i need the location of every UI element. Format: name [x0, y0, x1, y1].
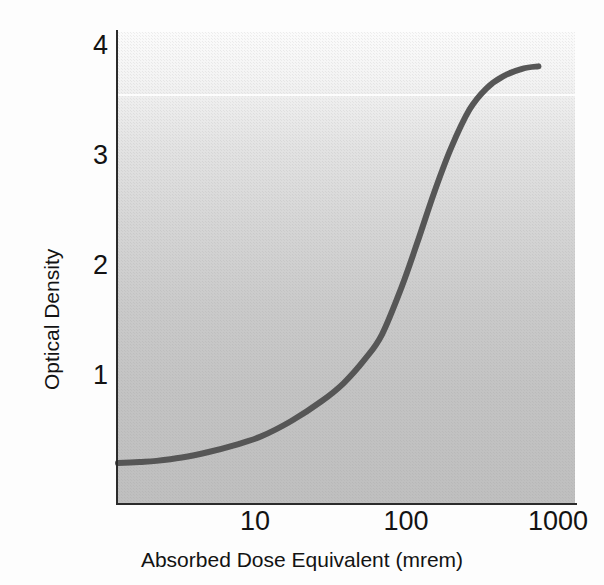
- x-tick-label-100: 100: [383, 508, 428, 535]
- y-axis-title: Optical Density: [40, 90, 64, 390]
- chart-figure: 4 3 2 1 10 100 1000 Optical Density Abso…: [0, 0, 604, 585]
- curve-path: [118, 66, 538, 463]
- x-tick-label-1000: 1000: [528, 508, 588, 535]
- y-tick-label-4: 4: [78, 32, 108, 59]
- plot-area: [118, 32, 575, 503]
- y-axis-line: [116, 30, 118, 505]
- y-tick-label-1: 1: [78, 362, 108, 389]
- y-tick-label-3: 3: [78, 142, 108, 169]
- x-axis-title: Absorbed Dose Equivalent (mrem): [0, 548, 604, 572]
- y-tick-label-2: 2: [78, 252, 108, 279]
- data-curve: [118, 32, 575, 503]
- x-axis-line: [116, 503, 577, 505]
- x-tick-label-10: 10: [240, 508, 270, 535]
